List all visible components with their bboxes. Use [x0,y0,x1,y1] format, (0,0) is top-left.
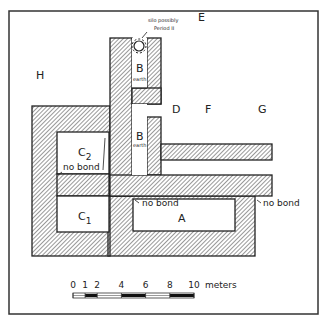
scale-bar-filled-segment [170,294,194,297]
silo-pointer [142,32,147,38]
scale-bar-tick-label: 10 [188,280,200,290]
label-room-b-lower-note: earth [133,142,146,148]
wall-b-lower-right [147,117,161,175]
scale-bar-filled-segment [121,294,145,297]
label-room-b-upper: B [136,62,144,75]
site-plan: silo possibly Period II H E D F G B eart… [0,0,326,325]
scale-unit: meters [205,280,237,290]
label-room-g: G [258,103,267,116]
wall-b-upper-bottom [132,88,161,104]
scale-bar-tick-label: 0 [70,280,76,290]
wall-upper-horizontal [161,144,272,160]
scale-bar-tick-label: 4 [119,280,125,290]
wall-c-partition [57,174,109,196]
scale-bar-tick-label: 6 [143,280,149,290]
label-room-b-upper-note: earth [133,76,146,82]
label-room-d: D [172,103,180,116]
label-room-f: F [205,103,211,116]
no-bond-a-left: no bond [142,198,179,208]
wall-b-left [110,38,132,196]
no-bond-a-right: no bond [263,198,300,208]
label-room-e: E [198,11,205,24]
scale-bar: 01246810 [70,280,200,298]
scale-bar-tick-label: 2 [94,280,100,290]
silo-note-line1: silo possibly [148,17,178,24]
silo-note-line2: Period II [154,25,174,31]
label-room-h: H [36,69,44,82]
wall-lower-horizontal [110,175,272,196]
scale-bar-filled-segment [85,294,97,297]
label-room-a: A [178,212,186,225]
scale-bar-tick-label: 1 [82,280,88,290]
scale-bar-tick-label: 8 [167,280,173,290]
no-bond-c2: no bond [63,162,100,172]
